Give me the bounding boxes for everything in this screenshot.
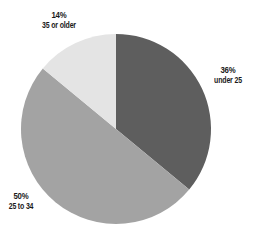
- slice-category: under 25: [208, 75, 249, 86]
- slice-label-35-or-older: 14% 35 or older: [34, 9, 85, 31]
- slice-category: 25 to 34: [4, 201, 38, 212]
- pie-slices: [21, 34, 211, 224]
- slice-label-25-to-34: 50% 25 to 34: [4, 190, 38, 212]
- slice-percent: 36%: [208, 64, 249, 75]
- slice-label-under-25: 36% under 25: [208, 64, 249, 86]
- slice-percent: 50%: [4, 190, 38, 201]
- slice-percent: 14%: [34, 9, 85, 20]
- slice-category: 35 or older: [34, 20, 85, 31]
